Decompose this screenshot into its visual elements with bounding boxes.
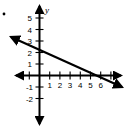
y-tick-label: 4 xyxy=(28,26,33,35)
y-tick-label: 1 xyxy=(28,60,33,69)
x-axis-tick-labels: 1 2 3 4 5 6 xyxy=(47,81,103,90)
x-tick-label: 6 xyxy=(98,81,103,90)
chart-figure: 1 2 3 4 5 6 5 4 3 2 1 -1 -2 y xyxy=(0,0,127,129)
y-tick-label: -2 xyxy=(26,95,34,104)
y-axis-tick-labels: 5 4 3 2 1 -1 -2 xyxy=(26,14,34,104)
x-tick-label: 4 xyxy=(78,81,83,90)
x-tick-label: 3 xyxy=(68,81,73,90)
coordinate-plane-plot: 1 2 3 4 5 6 5 4 3 2 1 -1 -2 y xyxy=(0,0,127,129)
y-axis-label: y xyxy=(44,5,49,15)
y-tick-label: -1 xyxy=(26,83,34,92)
x-tick-label: 2 xyxy=(58,81,63,90)
x-tick-label: 5 xyxy=(88,81,93,90)
x-tick-label: 1 xyxy=(47,81,52,90)
bullet-dot-icon xyxy=(3,13,6,16)
y-tick-label: 5 xyxy=(28,14,33,23)
y-tick-label: 2 xyxy=(28,49,33,58)
